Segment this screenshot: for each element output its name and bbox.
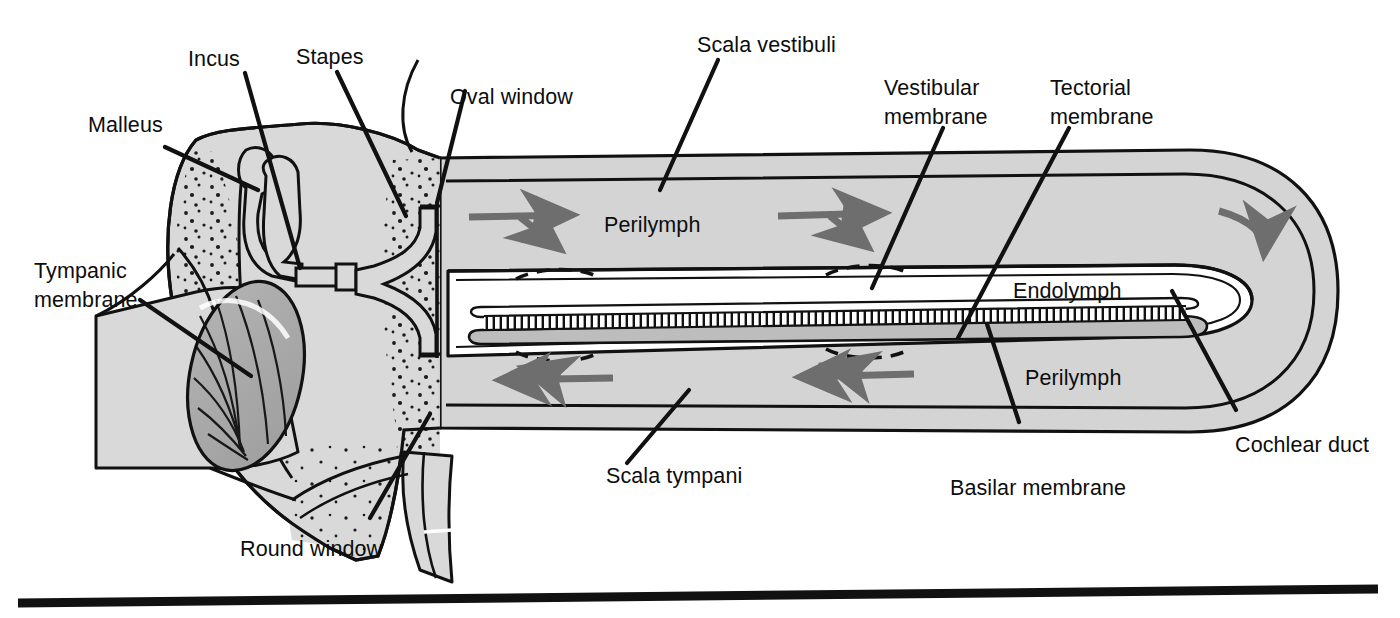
label-oval-window: Oval window: [450, 85, 573, 109]
label-perilymph-upper: Perilymph: [604, 213, 701, 237]
label-stapes: Stapes: [296, 45, 364, 69]
stapes-neck: [336, 264, 356, 290]
label-tectorial-membrane-line1: Tectorial: [1050, 76, 1131, 100]
label-basilar-membrane: Basilar membrane: [950, 476, 1126, 500]
label-incus: Incus: [188, 47, 240, 71]
label-endolymph: Endolymph: [1013, 279, 1121, 303]
label-perilymph-lower: Perilymph: [1025, 366, 1122, 390]
vestibule-arc: [403, 60, 418, 152]
label-tympanic-membrane-line2: membrane: [34, 288, 138, 312]
label-scala-tympani: Scala tympani: [606, 464, 742, 488]
figure-canvas: Malleus Incus Stapes Oval window Scala v…: [0, 0, 1400, 618]
label-vestibular-membrane-line2: membrane: [884, 105, 988, 129]
label-round-window: Round window: [240, 537, 383, 561]
label-tympanic-membrane-line1: Tympanic: [34, 259, 127, 283]
label-malleus: Malleus: [88, 113, 163, 137]
incus-long-process: [296, 268, 338, 286]
ear-anatomy-diagram: Malleus Incus Stapes Oval window Scala v…: [0, 0, 1400, 618]
basilar-membrane: [469, 298, 1207, 344]
label-scala-vestibuli: Scala vestibuli: [697, 33, 836, 57]
label-cochlear-duct: Cochlear duct: [1235, 433, 1369, 457]
label-tectorial-membrane-line2: membrane: [1050, 105, 1154, 129]
bottom-rule: [18, 589, 1378, 603]
label-vestibular-membrane-line1: Vestibular: [884, 76, 979, 100]
